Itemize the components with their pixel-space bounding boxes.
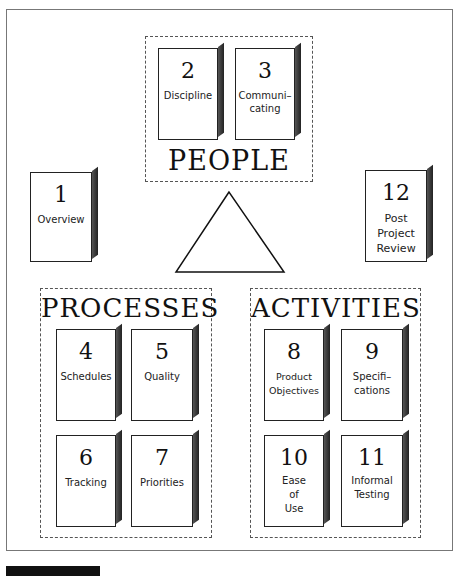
card-label: Tracking xyxy=(57,476,115,489)
card-label: Product Objectives xyxy=(265,370,323,398)
processes-title: PROCESSES xyxy=(41,293,211,323)
card-label: Priorities xyxy=(132,476,192,489)
card-number: 6 xyxy=(57,446,115,470)
card-number: 11 xyxy=(342,446,402,470)
card-1-overview: 1 Overview xyxy=(30,172,92,262)
activities-group: ACTIVITIES 8 Product Objectives 9 Specif… xyxy=(250,288,421,538)
card-2-discipline: 2 Discipline xyxy=(158,48,218,140)
card-number: 4 xyxy=(57,340,115,364)
people-group: 2 Discipline 3 Communi– cating PEOPLE xyxy=(145,36,313,182)
triangle-shape xyxy=(170,188,290,278)
card-5-quality: 5 Quality xyxy=(131,329,193,421)
card-7-priorities: 7 Priorities xyxy=(131,435,193,527)
card-11-informal-testing: 11 Informal Testing xyxy=(341,435,403,527)
card-label: Discipline xyxy=(159,89,217,102)
card-label: Schedules xyxy=(57,370,115,383)
card-4-schedules: 4 Schedules xyxy=(56,329,116,421)
card-3-communicating: 3 Communi– cating xyxy=(235,48,295,140)
card-label: Informal Testing xyxy=(342,474,402,502)
card-label: Communi– cating xyxy=(236,89,294,115)
card-label: Specifi– cations xyxy=(342,370,402,398)
card-number: 1 xyxy=(31,183,91,207)
activities-title: ACTIVITIES xyxy=(251,293,420,323)
card-number: 8 xyxy=(265,340,323,364)
card-number: 3 xyxy=(236,59,294,83)
card-label: Ease of Use xyxy=(265,474,323,516)
processes-group: PROCESSES 4 Schedules 5 Quality 6 Tracki… xyxy=(40,288,212,538)
card-9-specifications: 9 Specifi– cations xyxy=(341,329,403,421)
card-number: 5 xyxy=(132,340,192,364)
card-number: 10 xyxy=(265,446,323,470)
card-12-post-project-review: 12 Post Project Review xyxy=(365,170,427,262)
card-label: Post Project Review xyxy=(366,211,426,256)
card-number: 7 xyxy=(132,446,192,470)
people-title: PEOPLE xyxy=(146,145,312,176)
black-bar xyxy=(6,566,100,576)
card-label: Overview xyxy=(31,213,91,226)
card-number: 12 xyxy=(366,181,426,205)
card-6-tracking: 6 Tracking xyxy=(56,435,116,527)
card-8-product-objectives: 8 Product Objectives xyxy=(264,329,324,421)
card-10-ease-of-use: 10 Ease of Use xyxy=(264,435,324,527)
card-number: 9 xyxy=(342,340,402,364)
card-number: 2 xyxy=(159,59,217,83)
card-label: Quality xyxy=(132,370,192,383)
